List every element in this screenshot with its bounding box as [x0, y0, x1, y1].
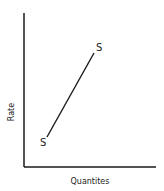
- y-axis-label: Rate: [7, 103, 16, 121]
- supply-curve: [47, 53, 94, 137]
- curve-end-label: S: [96, 42, 102, 53]
- curve-start-label: S: [40, 137, 46, 148]
- supply-chart: S S Quantites Rate: [0, 0, 164, 191]
- x-axis-label: Quantites: [71, 177, 110, 186]
